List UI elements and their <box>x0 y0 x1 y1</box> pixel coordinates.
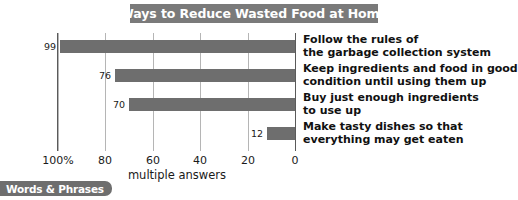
category-label-3: Buy just enough ingredients to use up <box>303 92 479 117</box>
category-label-4: Make tasty dishes so that everything may… <box>303 121 463 146</box>
category-label-2: Keep ingredients and food in good condit… <box>303 63 518 88</box>
bar-buy-just-enough <box>129 98 295 111</box>
category-label-3-line-2: to use up <box>303 105 479 118</box>
bar-value-2: 76 <box>91 69 111 82</box>
chart-title: Ways to Reduce Wasted Food at Home <box>120 6 388 21</box>
bar-make-tasty-dishes <box>267 127 295 140</box>
category-label-2-line-2: condition until using them up <box>303 76 518 89</box>
gridline-0 <box>295 33 296 151</box>
words-and-phrases-badge: Words & Phrases <box>0 181 112 196</box>
plot-area: 99 76 70 12 <box>58 33 296 151</box>
bar-value-1: 99 <box>36 40 56 53</box>
category-label-2-line-1: Keep ingredients and food in good <box>303 63 518 76</box>
tick-label-20: 20 <box>241 154 255 167</box>
x-axis-title: multiple answers <box>128 168 226 182</box>
category-label-4-line-1: Make tasty dishes so that <box>303 121 463 134</box>
bar-value-4: 12 <box>243 127 263 140</box>
chart-title-banner: Ways to Reduce Wasted Food at Home <box>130 4 378 23</box>
category-label-1-line-1: Follow the rules of <box>303 34 491 47</box>
category-label-1: Follow the rules of the garbage collecti… <box>303 34 491 59</box>
tick-label-40: 40 <box>193 154 207 167</box>
category-label-4-line-2: everything may get eaten <box>303 134 463 147</box>
category-label-3-line-1: Buy just enough ingredients <box>303 92 479 105</box>
gridline-100 <box>58 33 59 151</box>
tick-label-100: 100% <box>42 154 73 167</box>
bar-keep-ingredients <box>115 69 295 82</box>
tick-label-0: 0 <box>292 154 299 167</box>
bar-value-3: 70 <box>105 98 125 111</box>
tick-label-80: 80 <box>98 154 112 167</box>
badge-label: Words & Phrases <box>6 183 104 195</box>
bar-follow-rules <box>60 40 295 53</box>
tick-label-60: 60 <box>146 154 160 167</box>
category-label-1-line-2: the garbage collection system <box>303 47 491 60</box>
